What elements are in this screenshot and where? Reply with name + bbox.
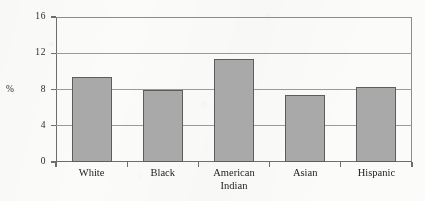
bar-slot: [127, 17, 198, 162]
y-axis-tick-label: 0: [0, 157, 46, 167]
bar-slot: [341, 17, 412, 162]
x-axis-labels-group: WhiteBlackAmericanIndianAsianHispanic: [56, 167, 412, 199]
x-axis-label-line: Hispanic: [341, 167, 412, 180]
y-axis-tick-label: 12: [0, 48, 46, 58]
bar-slot: [56, 17, 127, 162]
bars-group: [56, 17, 412, 162]
x-axis-label-line: Indian: [198, 180, 269, 193]
x-axis-label: Asian: [270, 167, 341, 180]
y-axis-tick: 16: [0, 12, 46, 22]
x-axis-label: White: [56, 167, 127, 180]
x-axis-label: Black: [127, 167, 198, 180]
figure-page: 0481216 % WhiteBlackAmericanIndianAsianH…: [0, 0, 425, 201]
bar[interactable]: [214, 59, 254, 162]
y-axis-tick-label: 4: [0, 121, 46, 131]
bar[interactable]: [356, 87, 396, 162]
y-axis-tick: 12: [0, 48, 46, 58]
y-axis-tick-label: 16: [0, 12, 46, 22]
bar[interactable]: [143, 90, 183, 162]
x-axis-label-line: White: [56, 167, 127, 180]
x-axis-label: AmericanIndian: [198, 167, 269, 192]
y-axis-tick: 0: [0, 157, 46, 167]
bar[interactable]: [72, 77, 112, 162]
x-axis-label-line: Asian: [270, 167, 341, 180]
y-axis-tick: 4: [0, 121, 46, 131]
bar-slot: [270, 17, 341, 162]
bar[interactable]: [285, 95, 325, 162]
y-axis-unit-label: %: [6, 85, 14, 95]
bar-slot: [198, 17, 269, 162]
x-axis-label-line: Black: [127, 167, 198, 180]
x-axis-label: Hispanic: [341, 167, 412, 180]
x-axis-label-line: American: [198, 167, 269, 180]
